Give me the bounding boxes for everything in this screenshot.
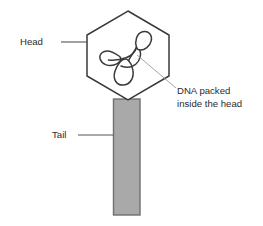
dna-label-line2: inside the head: [177, 98, 242, 109]
dna-label-line1: DNA packed: [177, 85, 230, 96]
tail-label: Tail: [52, 129, 66, 140]
head-label: Head: [20, 36, 43, 47]
tail-shape: [114, 99, 141, 215]
bacteriophage-diagram: Head Tail DNA packed inside the head: [0, 0, 263, 226]
figure-canvas: Head Tail DNA packed inside the head: [0, 0, 263, 226]
